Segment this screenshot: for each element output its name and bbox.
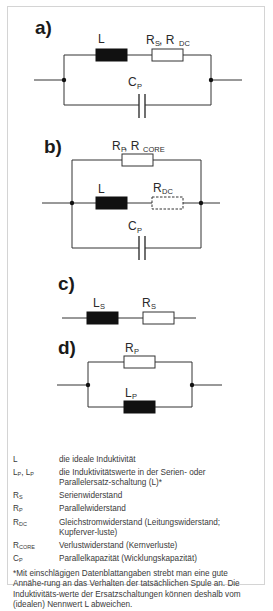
legend-description: Verlustwiderstand (Kernverluste) [59,541,258,553]
svg-text:DC: DC [162,187,173,196]
legend-symbol: LP, LP [13,468,59,489]
legend-description: Parallelwiderstand [59,504,258,516]
legend-symbol: RS [13,491,59,503]
resistor-b-dc [152,197,183,209]
svg-text:S: S [151,302,156,311]
label-c-resistor: R S [142,296,156,311]
svg-text:S: S [100,302,105,311]
legend: L die ideale Induktivität LP, LP die Ind… [13,455,258,611]
legend-description: Serienwiderstand [59,491,258,503]
label-a-inductor: L [98,32,105,46]
svg-text:C: C [128,219,137,233]
label-b-resistor-dc: R DC [153,181,173,196]
svg-text:R: R [153,181,162,195]
label-d-resistor: R P [125,341,139,356]
svg-text:L: L [93,296,100,310]
legend-row: CP Parallelkapazität (Wicklungskapazität… [13,554,258,566]
resistor-a [152,49,183,61]
panel-label-c: c) [58,273,75,294]
svg-text:C: C [128,75,137,89]
node-d-right [190,383,194,387]
svg-text:DC: DC [179,39,190,48]
node-a-right [209,78,213,82]
svg-text:P: P [134,347,139,356]
legend-description: die Induktivitätswerte in der Serien- od… [59,468,258,489]
svg-text:R: R [125,341,134,355]
label-a-capacitor: C P [128,75,142,91]
svg-text:, R: , R [159,33,175,47]
circuit-a: a) L R S , R DC C P [34,17,242,118]
label-b-resistor-top: R P , R CORE [112,139,165,154]
svg-text:R: R [112,139,121,153]
circuit-c: c) L S R S [58,273,196,324]
footnote: *Mit einschlägigen Datenblattangaben str… [13,569,258,611]
legend-row: RCORE Verlustwiderstand (Kernverluste) [13,541,258,553]
label-c-inductor: L S [93,296,105,311]
svg-text:R: R [146,33,155,47]
label-b-capacitor: C P [128,219,142,235]
legend-row: RDC Gleichstromwiderstand (Leitungswider… [13,518,258,539]
panel-label-d: d) [58,337,76,358]
legend-symbol: L [13,455,59,466]
legend-row: RP Parallelwiderstand [13,504,258,516]
resistor-d [124,356,155,368]
svg-text:P: P [137,82,142,91]
legend-symbol: CP [13,554,59,566]
circuit-d: d) R P L P [57,337,222,413]
resistor-c [143,312,174,324]
svg-text:, R: , R [124,139,140,153]
inductor-c [87,312,118,324]
legend-symbol: RCORE [13,541,59,553]
svg-text:P: P [137,226,142,235]
svg-text:P: P [132,392,137,401]
inductor-b [96,197,127,209]
svg-text:CORE: CORE [143,145,165,154]
circuit-b: b) R P , R CORE L R DC C P [42,136,220,260]
legend-symbol: RP [13,504,59,516]
label-b-inductor: L [98,182,105,196]
inductor-d [124,401,155,413]
legend-description: Parallelkapazität (Wicklungskapazität) [59,554,258,566]
resistor-b-core [122,154,153,166]
svg-text:R: R [142,296,151,310]
label-d-inductor: L P [125,386,137,401]
legend-description: Gleichstromwiderstand (Leitungswiderstan… [59,518,258,539]
panel-label-b: b) [44,136,62,157]
legend-row: L die ideale Induktivität [13,455,258,466]
node-a-left [62,78,66,82]
legend-description: die ideale Induktivität [59,455,258,466]
node-b-right [199,201,203,205]
label-a-resistor: R S , R DC [146,33,190,48]
node-d-left [86,383,90,387]
inductor-a [96,49,127,61]
legend-row: LP, LP die Induktivitätswerte in der Ser… [13,468,258,489]
svg-text:L: L [125,386,132,400]
panel-label-a: a) [35,17,52,38]
legend-row: RS Serienwiderstand [13,491,258,503]
equivalent-circuits-diagram: a) L R S , R DC C P b) R P [0,0,273,455]
node-b-left [70,201,74,205]
legend-symbol: RDC [13,518,59,539]
